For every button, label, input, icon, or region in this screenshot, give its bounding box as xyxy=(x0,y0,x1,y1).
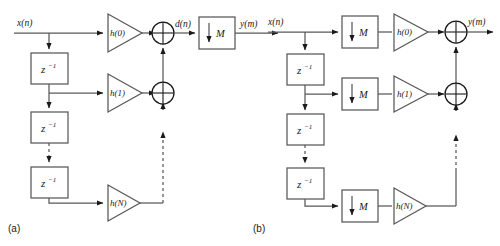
panel-a-delay-3: z −1 xyxy=(31,167,68,198)
panel-a-wire-to-hN xyxy=(49,198,103,203)
panel-a-adder-2 xyxy=(152,82,174,104)
panel-a-label-dn: d(n) xyxy=(175,19,191,30)
panel-b-downsampler-3: M xyxy=(342,190,378,222)
panel-b-delay-2: z −1 xyxy=(287,114,324,145)
panel-b-delay-3: z −1 xyxy=(287,168,324,199)
panel-b-caption: (b) xyxy=(253,223,265,234)
svg-text:z: z xyxy=(296,124,302,136)
panel-b-adder-2 xyxy=(445,83,467,105)
panel-a-filter-h1: h(1) xyxy=(108,74,142,112)
panel-b-downsampler-1: M xyxy=(342,16,378,48)
svg-text:z: z xyxy=(40,122,46,134)
panel-b-downsampler-2-label: M xyxy=(358,89,369,100)
svg-text:h(1): h(1) xyxy=(397,89,412,99)
panel-a-downsampler-label: M xyxy=(215,28,226,39)
svg-text:h(0): h(0) xyxy=(110,28,125,38)
panel-a-filter-h0: h(0) xyxy=(108,14,142,52)
panel-b-adder-1 xyxy=(445,21,467,43)
svg-text:−1: −1 xyxy=(48,62,56,70)
svg-text:h(N): h(N) xyxy=(110,198,127,208)
panel-a-output-label: y(m) xyxy=(239,19,257,30)
panel-a-adder-1 xyxy=(152,22,174,44)
svg-text:h(0): h(0) xyxy=(397,27,412,37)
panel-b-wire-to-ds3 xyxy=(305,199,338,206)
svg-text:z: z xyxy=(296,64,302,76)
panel-b-output-label: y(m) xyxy=(467,17,485,28)
svg-text:z: z xyxy=(296,178,302,190)
panel-b-input-label: x(n) xyxy=(267,17,283,28)
svg-text:−1: −1 xyxy=(304,177,312,185)
panel-b-downsampler-3-label: M xyxy=(358,201,369,212)
panel-a-delay-2: z −1 xyxy=(31,112,68,143)
block-diagram-svg: z −1 z −1 z −1 xyxy=(0,0,500,246)
panel-a: z −1 z −1 z −1 xyxy=(8,14,278,234)
panel-a-input-label: x(n) xyxy=(16,18,32,29)
panel-a-caption: (a) xyxy=(8,223,20,234)
panel-b-delay-1: z −1 xyxy=(287,54,324,85)
svg-text:h(1): h(1) xyxy=(110,88,125,98)
svg-text:z: z xyxy=(40,63,46,75)
panel-b-filter-h0: h(0) xyxy=(394,14,428,51)
panel-b-filter-h1: h(1) xyxy=(394,76,428,112)
panel-b-downsampler-2: M xyxy=(342,78,378,110)
figure-root: z −1 z −1 z −1 xyxy=(0,0,500,246)
svg-text:−1: −1 xyxy=(48,121,56,129)
svg-text:z: z xyxy=(40,177,46,189)
panel-a-filter-hN: h(N) xyxy=(108,185,140,221)
panel-b-downsampler-1-label: M xyxy=(358,27,369,38)
svg-text:h(N): h(N) xyxy=(396,201,413,211)
svg-text:−1: −1 xyxy=(48,176,56,184)
panel-a-delay-1: z −1 xyxy=(31,53,68,84)
svg-text:−1: −1 xyxy=(304,63,312,71)
panel-a-downsampler: M xyxy=(199,17,235,49)
panel-b-filter-hN: h(N) xyxy=(394,188,426,224)
panel-b: z −1 z −1 z −1 xyxy=(253,14,493,234)
svg-text:−1: −1 xyxy=(304,123,312,131)
